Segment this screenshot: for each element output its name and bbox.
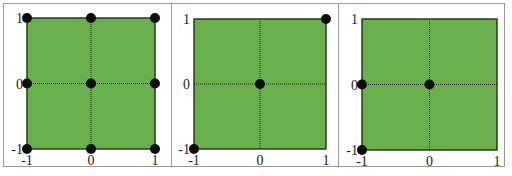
data-point	[22, 79, 32, 89]
data-point	[22, 13, 32, 23]
scatter-panel-1: -101-101	[11, 11, 160, 168]
x-tick-label: 0	[88, 153, 95, 168]
data-point	[150, 79, 160, 89]
data-point	[150, 144, 160, 154]
scatter-panel-2: -101-101	[178, 12, 331, 168]
data-point	[189, 144, 199, 154]
y-tick-label: 0	[16, 77, 23, 92]
data-point	[321, 14, 331, 24]
data-point	[425, 80, 435, 90]
x-tick-label: -1	[188, 153, 200, 168]
x-tick-label: 1	[494, 154, 501, 169]
y-tick-label: 0	[183, 77, 190, 92]
x-tick-label: 0	[426, 154, 433, 169]
x-tick-label: -1	[21, 153, 33, 168]
data-point	[357, 80, 367, 90]
data-point	[22, 144, 32, 154]
chart-canvas: -101-101-101-101-101-101	[0, 0, 512, 176]
data-point	[255, 79, 265, 89]
data-point	[86, 79, 96, 89]
y-tick-label: 0	[351, 78, 358, 93]
scatter-panel-3: -101-101	[346, 12, 500, 169]
y-tick-label: 1	[351, 12, 358, 27]
x-tick-label: 1	[323, 153, 330, 168]
data-point	[86, 144, 96, 154]
x-tick-label: 1	[152, 153, 159, 168]
y-tick-label: 1	[16, 11, 23, 26]
x-tick-label: 0	[257, 153, 264, 168]
data-point	[150, 13, 160, 23]
y-tick-label: 1	[183, 12, 190, 27]
data-point	[86, 13, 96, 23]
data-point	[357, 145, 367, 155]
x-tick-label: -1	[356, 154, 368, 169]
